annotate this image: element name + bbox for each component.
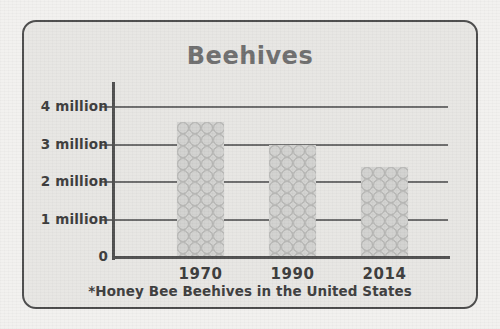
y-tick-label-2: 2 million: [41, 173, 108, 189]
x-tick-label-1970: 1970: [177, 265, 224, 283]
y-tick-label-4: 4 million: [41, 98, 108, 114]
bar-2014: [361, 167, 408, 257]
x-axis-line: [112, 256, 450, 259]
y-tick-label-3: 3 million: [41, 136, 108, 152]
x-tick-label-2014: 2014: [361, 265, 408, 283]
bar-1990: [269, 145, 316, 258]
bar-1970: [177, 122, 224, 257]
y-axis-line: [112, 82, 115, 260]
chart-footnote: *Honey Bee Beehives in the United States: [24, 283, 476, 299]
x-tick-label-1990: 1990: [269, 265, 316, 283]
chart-card: Beehives 4 million3 million2 million1 mi…: [22, 20, 478, 309]
gridline-4: [113, 106, 448, 108]
plot-area: 4 million3 million2 million1 million0 19…: [24, 22, 478, 309]
y-tick-label-1: 1 million: [41, 211, 108, 227]
y-tick-label-0: 0: [98, 248, 108, 264]
